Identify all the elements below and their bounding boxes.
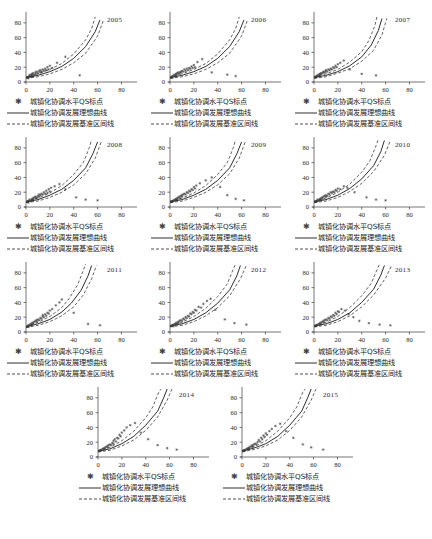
upper-band-curve <box>242 389 305 450</box>
year-label: 2005 <box>107 16 122 24</box>
y-tick-label: 80 <box>159 269 166 276</box>
scatter-point <box>343 185 346 188</box>
legend-row: ✱城镇化协调水平QS标点 <box>222 471 360 482</box>
scatter-point <box>331 316 334 319</box>
x-tick-label: 20 <box>335 86 342 93</box>
lower-band-curve <box>26 20 104 78</box>
scatter-point <box>49 64 52 67</box>
plot-wrapper: 020406080020406080 <box>288 133 432 221</box>
scatter-point <box>55 304 58 307</box>
plot-area-2014: 020406080020406080 <box>72 383 216 471</box>
legend-key-scatter: ✱ <box>150 96 174 107</box>
legend-row: 城镇化协调发展理想曲线 <box>78 482 216 493</box>
legend-row: 城镇化协调发展理想曲线 <box>222 482 360 493</box>
x-tick-label: 20 <box>191 336 198 343</box>
y-tick-label: 80 <box>15 269 22 276</box>
scatter-point <box>189 190 192 193</box>
year-label: 2011 <box>107 266 122 274</box>
scatter-point <box>191 67 194 70</box>
x-tick-label: 0 <box>24 86 27 93</box>
x-tick-label: 60 <box>238 336 245 343</box>
y-tick-label: 80 <box>15 144 22 151</box>
scatter-point <box>226 194 229 197</box>
x-tick-label: 20 <box>47 211 54 218</box>
legend-label-scatter: 城镇化协调水平QS标点 <box>174 96 247 107</box>
year-label: 2014 <box>179 391 194 399</box>
lower-band-curve <box>170 142 245 203</box>
scatter-point <box>115 440 118 443</box>
dashed-line-marker-icon <box>151 121 173 127</box>
legend-key-scatter: ✱ <box>150 346 174 357</box>
y-tick-label: 60 <box>159 34 166 41</box>
legend-label-scatter: 城镇化协调水平QS标点 <box>174 346 247 357</box>
legend-row: 城镇化协调发展基准区间线 <box>294 368 432 379</box>
x-tick-label: 0 <box>312 86 315 93</box>
x-tick-label: 20 <box>263 461 270 468</box>
x-tick-label: 60 <box>382 86 389 93</box>
scatter-point <box>40 317 43 320</box>
dashed-line-marker-icon <box>7 121 29 127</box>
legend-key-ideal <box>78 482 102 493</box>
scatter-point <box>187 69 190 72</box>
legend-label-ideal: 城镇化协调发展理想曲线 <box>318 232 395 243</box>
y-tick-label: 40 <box>15 49 22 56</box>
scatter-point <box>134 422 137 425</box>
legend-label-scatter: 城镇化协调水平QS标点 <box>318 221 391 232</box>
dashed-line-marker-icon <box>295 371 317 377</box>
scatter-point <box>206 300 209 303</box>
solid-line-marker-icon <box>79 485 101 491</box>
legend-row: 城镇化协调发展基准区间线 <box>6 243 144 254</box>
scatter-point <box>185 317 188 320</box>
scatter-point <box>47 312 50 315</box>
scatter-point <box>166 447 169 450</box>
x-tick-label: 0 <box>24 211 27 218</box>
scatter-point <box>38 319 41 322</box>
scatter-point <box>204 179 207 182</box>
y-tick-label: 80 <box>87 394 94 401</box>
scatter-point <box>261 438 264 441</box>
scatter-point <box>58 301 61 304</box>
y-tick-label: 20 <box>303 189 310 196</box>
y-tick-label: 80 <box>303 19 310 26</box>
y-tick-label: 40 <box>303 49 310 56</box>
legend: ✱城镇化协调水平QS标点城镇化协调发展理想曲线城镇化协调发展基准区间线 <box>6 346 144 379</box>
scatter-point <box>187 192 190 195</box>
legend-key-scatter: ✱ <box>150 221 174 232</box>
x-tick-label: 80 <box>406 86 413 93</box>
scatter-point <box>343 59 346 62</box>
panel-2013: 0204060800204060802013✱城镇化协调水平QS标点城镇化协调发… <box>288 258 432 383</box>
plot-area-2015: 020406080020406080 <box>216 383 360 471</box>
y-tick-label: 20 <box>231 439 238 446</box>
legend-key-ideal <box>150 107 174 118</box>
dashed-line-marker-icon <box>7 371 29 377</box>
y-tick-label: 0 <box>18 78 21 85</box>
scatter-point <box>121 431 124 434</box>
scatter-point <box>333 67 336 70</box>
scatter-point <box>335 313 338 316</box>
legend-row: 城镇化协调发展基准区间线 <box>294 243 432 254</box>
scatter-point <box>243 199 246 202</box>
y-tick-label: 60 <box>87 409 94 416</box>
legend-row: 城镇化协调发展理想曲线 <box>294 232 432 243</box>
x-tick-label: 60 <box>382 211 389 218</box>
year-label: 2007 <box>395 16 410 24</box>
x-tick-label: 80 <box>118 336 125 343</box>
legend-key-band <box>294 368 318 379</box>
x-tick-label: 40 <box>358 211 365 218</box>
scatter-point <box>190 313 193 316</box>
scatter-point <box>45 314 48 317</box>
ideal-curve <box>242 389 311 451</box>
legend-label-scatter: 城镇化协调水平QS标点 <box>102 471 175 482</box>
y-tick-label: 40 <box>87 424 94 431</box>
y-tick-label: 60 <box>159 284 166 291</box>
legend-key-band <box>78 493 102 504</box>
scatter-point <box>358 320 361 323</box>
asterisk-marker-icon: ✱ <box>15 348 22 356</box>
ideal-curve <box>98 389 167 451</box>
lower-band-curve <box>170 265 246 326</box>
y-tick-label: 40 <box>303 299 310 306</box>
x-tick-label: 80 <box>334 461 341 468</box>
y-tick-label: 60 <box>303 34 310 41</box>
x-tick-label: 40 <box>142 461 149 468</box>
scatter-point <box>233 322 236 325</box>
